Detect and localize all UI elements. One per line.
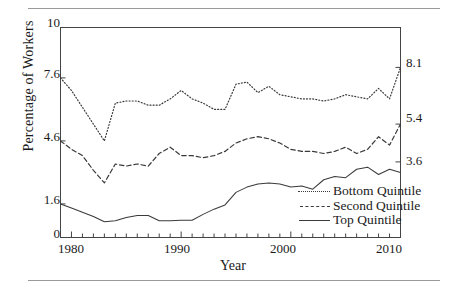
line-chart: Percentage of Workers Year 10 7.6 4.6 1.… — [0, 0, 466, 288]
legend-key-dotted-icon — [296, 186, 330, 196]
legend-item-bottom-quintile: Bottom Quintile — [296, 184, 421, 199]
legend-label-second-quintile: Second Quintile — [333, 199, 420, 214]
legend-label-bottom-quintile: Bottom Quintile — [333, 184, 421, 199]
legend-key-solid-icon — [296, 215, 330, 225]
plot-area — [0, 0, 466, 288]
legend-label-top-quintile: Top Quintile — [333, 213, 401, 228]
chart-legend: Bottom Quintile Second Quintile Top Quin… — [296, 184, 421, 228]
legend-item-second-quintile: Second Quintile — [296, 199, 421, 214]
legend-item-top-quintile: Top Quintile — [296, 213, 421, 228]
series-line-bottom-quintile — [61, 67, 401, 140]
legend-key-dashed-icon — [296, 201, 330, 211]
